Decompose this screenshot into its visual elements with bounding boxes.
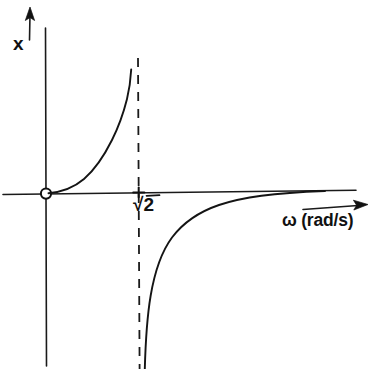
labels-group: x √2 ω (rad/s) bbox=[13, 33, 353, 230]
axes-group bbox=[3, 7, 368, 366]
radical-overline bbox=[147, 195, 160, 196]
arrow-right-icon bbox=[303, 200, 368, 210]
reactance-plot: x √2 ω (rad/s) bbox=[0, 0, 374, 369]
x-axis-label: ω (rad/s) bbox=[282, 210, 353, 230]
figure-canvas: x √2 ω (rad/s) bbox=[0, 0, 374, 369]
curve-branch-left bbox=[49, 70, 132, 194]
arrow-up-icon bbox=[25, 7, 34, 40]
asymptote-label: √2 bbox=[133, 194, 154, 215]
y-axis-label: x bbox=[13, 33, 24, 54]
